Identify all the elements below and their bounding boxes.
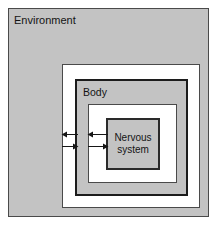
nervous-system-label-line2: system	[117, 144, 149, 155]
body-label: Body	[83, 87, 107, 98]
nervous-system-label: Nervous system	[114, 132, 151, 156]
arrow-inward-body	[88, 132, 109, 138]
body-nervous-system-arrow-pair	[87, 128, 109, 152]
diagram-canvas: Environment Body Nervous system	[0, 0, 218, 225]
arrow-outward-body	[88, 144, 109, 150]
arrow-inward-environment	[62, 132, 79, 138]
arrow-outward-environment	[62, 144, 79, 150]
nervous-system-box: Nervous system	[106, 118, 160, 170]
nervous-system-label-line1: Nervous	[114, 132, 151, 143]
environment-body-arrow-pair	[61, 128, 79, 152]
environment-label: Environment	[14, 15, 76, 26]
